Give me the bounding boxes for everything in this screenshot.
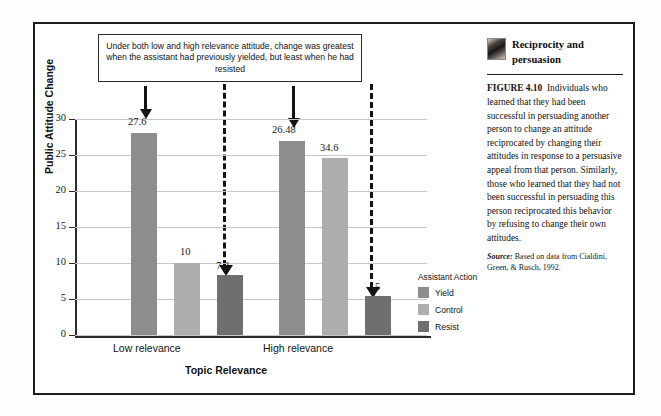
caption-column: Reciprocity and persuasion FIGURE 4.10 I…: [487, 38, 623, 273]
gridline: 15: [75, 227, 427, 228]
gridline: 0: [75, 335, 427, 336]
photo-thumbnail-icon: [487, 38, 506, 60]
figure-number: FIGURE 4.10: [487, 83, 542, 93]
legend-item-resist: Resist: [418, 321, 488, 332]
bar-high-control: [322, 158, 348, 335]
source-label: Source:: [487, 252, 513, 261]
y-tick-label: 30: [56, 112, 67, 123]
callout-text: Under both low and high relevance attitu…: [99, 41, 361, 76]
bar-high-resist: [365, 296, 391, 335]
x-category-low: Low relevance: [113, 342, 181, 354]
plot-area: 30 25 20 15 10 5 0 27.6 10 7.3 26.48: [75, 119, 427, 335]
solid-arrow-high-yield: [292, 86, 295, 119]
legend-title: Assistant Action: [418, 272, 488, 282]
gridline: 10: [75, 263, 427, 264]
callout-box: Under both low and high relevance attitu…: [98, 34, 362, 82]
value-label-low-control: 10: [180, 246, 191, 257]
value-label-low-resist: 7.3: [216, 260, 229, 271]
y-tick-label: 0: [61, 328, 66, 339]
bar-low-control: [174, 263, 200, 335]
x-axis-line: [75, 336, 431, 338]
value-label-high-resist: 5: [375, 281, 380, 292]
y-tick-label: 5: [61, 292, 66, 303]
legend-label-control: Control: [435, 305, 463, 315]
legend-swatch-yield: [418, 287, 429, 298]
x-category-high: High relevance: [263, 342, 333, 354]
y-tick-label: 15: [56, 220, 67, 231]
x-axis-title: Topic Relevance: [185, 364, 267, 376]
figure-frame: Under both low and high relevance attitu…: [33, 22, 635, 395]
y-axis-title: Public Attitude Change: [43, 59, 55, 174]
gridline: 25: [75, 155, 427, 156]
y-tick-label: 20: [56, 184, 67, 195]
caption-heading: Reciprocity and persuasion: [487, 38, 623, 67]
solid-arrow-low-yield: [144, 86, 147, 110]
chart-area: Under both low and high relevance attitu…: [35, 24, 480, 395]
legend-item-yield: Yield: [418, 287, 488, 298]
y-tick-label: 10: [56, 256, 67, 267]
value-label-high-control: 34.6: [320, 142, 338, 153]
bar-high-yield: [279, 141, 305, 335]
caption-text: Individuals who learned that they had be…: [487, 83, 622, 243]
bar-low-resist: [217, 275, 243, 336]
legend-label-resist: Resist: [435, 322, 459, 332]
chart-legend: Assistant Action Yield Control Resist: [418, 272, 488, 338]
figure-page: Under both low and high relevance attitu…: [0, 0, 661, 416]
bar-low-yield: [131, 133, 157, 335]
caption-source: Source: Based on data from Cialdini, Gre…: [487, 251, 623, 273]
value-label-low-yield: 27.6: [128, 116, 146, 127]
caption-body: FIGURE 4.10 Individuals who learned that…: [487, 82, 623, 245]
caption-topic-title: Reciprocity and persuasion: [512, 38, 623, 67]
legend-item-control: Control: [418, 304, 488, 315]
value-label-high-yield: 26.48: [272, 124, 296, 135]
gridline: 20: [75, 191, 427, 192]
legend-swatch-control: [418, 304, 429, 315]
y-tick-label: 25: [56, 148, 67, 159]
legend-swatch-resist: [418, 321, 429, 332]
caption-divider: [487, 74, 623, 75]
legend-label-yield: Yield: [435, 288, 454, 298]
